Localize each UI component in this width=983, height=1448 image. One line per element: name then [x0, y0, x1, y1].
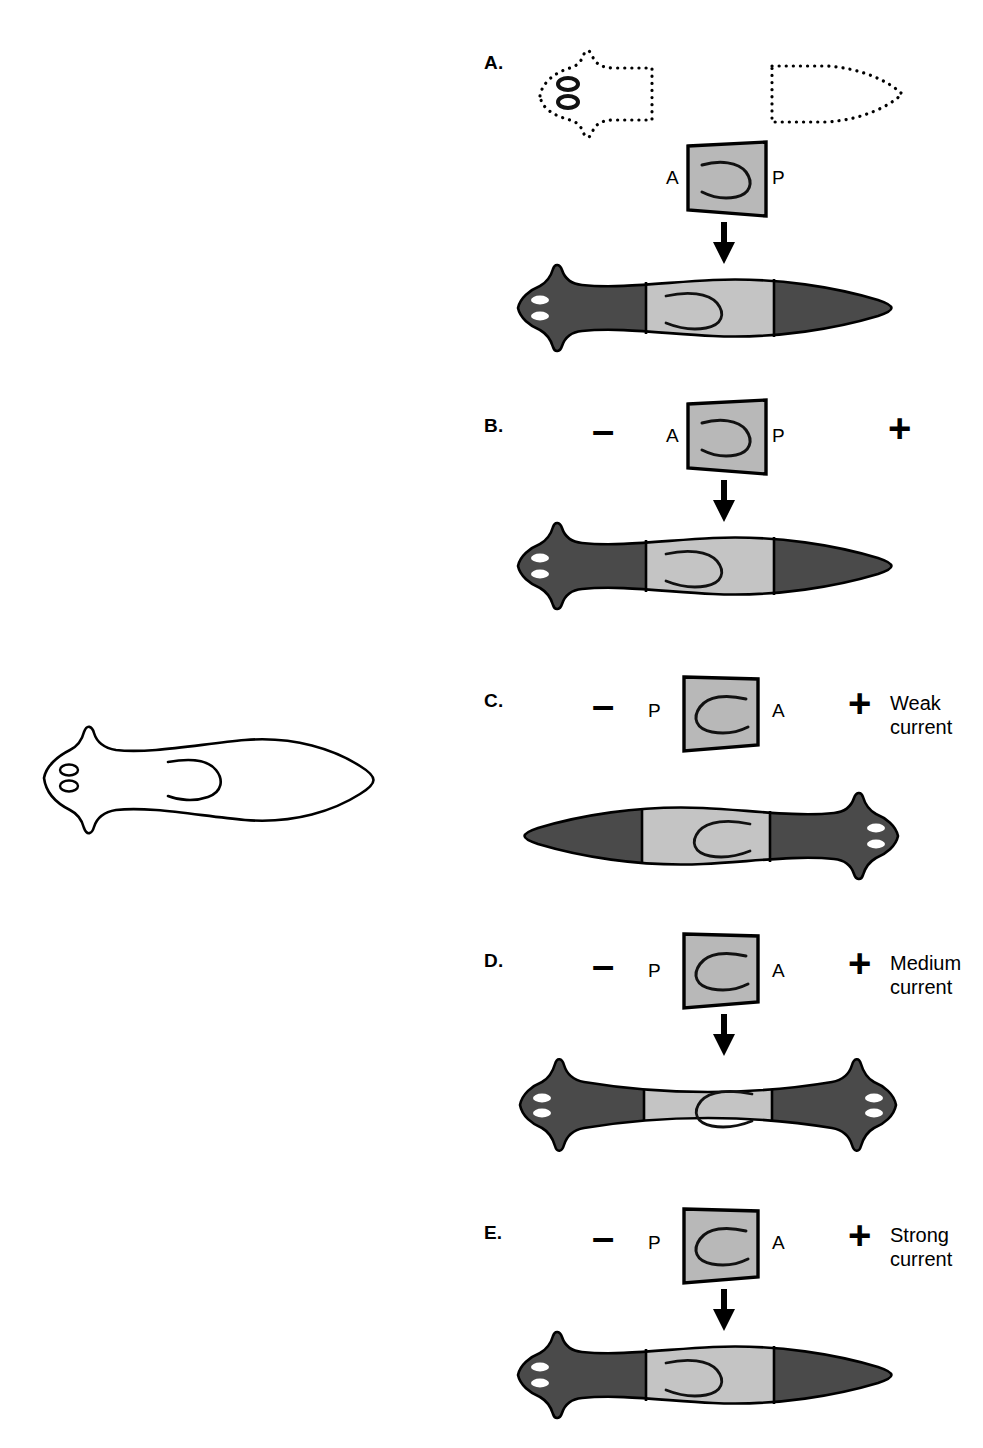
- result-worm-c: [508, 786, 908, 886]
- electrode-negative-c: –: [592, 685, 614, 725]
- graft-label-anterior-c: A: [772, 700, 785, 722]
- electrode-positive-d: +: [848, 943, 871, 983]
- panel-label-e: E.: [484, 1222, 502, 1244]
- graft-label-anterior-d: A: [772, 960, 785, 982]
- panel-label-d: D.: [484, 950, 503, 972]
- figure-canvas: A. A P: [0, 0, 983, 1448]
- current-line-1: Weak: [890, 692, 952, 716]
- current-strength-e: Strong current: [890, 1224, 952, 1271]
- current-strength-d: Medium current: [890, 952, 961, 999]
- graft-label-posterior-a: P: [772, 167, 785, 189]
- eyespot-icon: [533, 1109, 551, 1118]
- panel-label-c: C.: [484, 690, 503, 712]
- eyespot-icon: [865, 1109, 883, 1118]
- electrode-negative-b: –: [592, 410, 614, 450]
- graft-piece-b: [684, 398, 770, 478]
- eyespot-icon: [867, 824, 885, 833]
- graft-label-posterior-d: P: [648, 960, 661, 982]
- current-line-2: current: [890, 1248, 952, 1272]
- current-line-1: Strong: [890, 1224, 952, 1248]
- electrode-negative-d: –: [592, 945, 614, 985]
- graft-piece-a: [684, 140, 770, 220]
- eyespot-icon: [531, 1379, 549, 1388]
- graft-label-anterior-b: A: [666, 425, 679, 447]
- graft-label-posterior-c: P: [648, 700, 661, 722]
- current-line-2: current: [890, 716, 952, 740]
- graft-piece-e: [668, 1205, 764, 1287]
- graft-piece-d: [668, 930, 764, 1012]
- panel-label-b: B.: [484, 415, 503, 437]
- reference-worm-outline: [44, 727, 374, 833]
- current-strength-c: Weak current: [890, 692, 952, 739]
- reference-planarian: [30, 700, 390, 860]
- graft-label-posterior-b: P: [772, 425, 785, 447]
- eyespot-icon: [531, 296, 549, 305]
- graft-label-anterior-e: A: [772, 1232, 785, 1254]
- electrode-positive-c: +: [848, 683, 871, 723]
- graft-label-anterior-a: A: [666, 167, 679, 189]
- eyespot-icon: [531, 312, 549, 321]
- current-line-1: Medium: [890, 952, 961, 976]
- eyespot-icon: [531, 570, 549, 579]
- graft-label-posterior-e: P: [648, 1232, 661, 1254]
- eyespot-icon: [558, 78, 578, 90]
- result-worm-d-bipolar: [508, 1050, 908, 1160]
- eyespot-icon: [531, 554, 549, 563]
- eyespot-icon: [867, 840, 885, 849]
- dotted-tail-fragment: [766, 44, 916, 144]
- eyespot-icon: [558, 96, 578, 108]
- dotted-head-fragment: [500, 44, 660, 144]
- graft-piece-c: [668, 673, 764, 755]
- eyespot-icon: [531, 1363, 549, 1372]
- result-worm-b: [508, 516, 908, 616]
- result-worm-e: [508, 1325, 908, 1425]
- electrode-negative-e: –: [592, 1217, 614, 1257]
- eyespot-icon: [865, 1094, 883, 1103]
- electrode-positive-b: +: [888, 408, 911, 448]
- result-worm-a: [508, 258, 908, 358]
- eyespot-icon: [533, 1094, 551, 1103]
- electrode-positive-e: +: [848, 1215, 871, 1255]
- current-line-2: current: [890, 976, 961, 1000]
